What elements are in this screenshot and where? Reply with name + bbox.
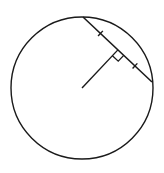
right-angle-marker	[112, 55, 123, 61]
perpendicular-from-center	[82, 50, 118, 88]
circle-chord-diagram	[0, 0, 164, 173]
